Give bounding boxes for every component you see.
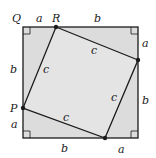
bottom-side-label-b: b: [61, 142, 68, 155]
inner-side-label-c-bottom: c: [63, 111, 69, 124]
point-label-p: P: [9, 102, 18, 115]
top-side-label-a: a: [36, 12, 43, 25]
top-side-label-b: b: [94, 12, 101, 25]
point-label-r: R: [51, 12, 60, 25]
vertex-bottom: [103, 136, 107, 140]
inner-side-label-c-left: c: [43, 63, 49, 76]
pythagorean-proof-diagram: Q R P a b a b b a b a c c c c: [0, 0, 156, 158]
bottom-side-label-a: a: [118, 143, 125, 156]
vertex-right: [136, 58, 140, 62]
vertex-p: [21, 106, 25, 110]
left-side-label-b: b: [10, 63, 17, 76]
inner-side-label-c-right: c: [111, 91, 117, 104]
right-side-label-b: b: [142, 94, 149, 107]
inner-side-label-c-top: c: [91, 44, 97, 57]
right-side-label-a: a: [142, 37, 149, 50]
point-label-q: Q: [12, 12, 21, 25]
left-side-label-a: a: [11, 118, 18, 131]
vertex-r: [54, 25, 58, 29]
